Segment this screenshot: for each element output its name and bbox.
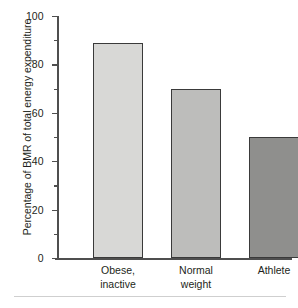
y-tick-0: 0 <box>52 258 58 259</box>
y-tick-label-40: 40 <box>32 156 44 167</box>
y-tick-label-100: 100 <box>26 11 44 22</box>
y-tick-label-0: 0 <box>38 253 44 264</box>
y-tick-60: 60 <box>52 113 58 114</box>
y-tick-100: 100 <box>52 16 58 17</box>
bottom-divider <box>14 296 286 297</box>
y-axis-title: Percentage of BMR of total energy expend… <box>19 0 35 257</box>
x-category-label-athlete: Athlete <box>224 264 298 278</box>
y-tick-80: 80 <box>52 64 58 65</box>
y-axis-line <box>57 16 59 258</box>
y-tick-70 <box>54 89 58 90</box>
y-tick-90 <box>54 40 58 41</box>
bar-normal-weight <box>171 89 221 258</box>
x-axis-line <box>55 258 292 260</box>
y-tick-30 <box>54 185 58 186</box>
bar-athlete <box>249 137 298 258</box>
y-tick-10 <box>54 234 58 235</box>
plot-area: 100 80 60 40 20 0 Obese, inactive Normal… <box>57 16 292 258</box>
bar-chart-figure: Percentage of BMR of total energy expend… <box>0 0 298 308</box>
y-tick-50 <box>54 137 58 138</box>
y-tick-40: 40 <box>52 161 58 162</box>
y-tick-label-80: 80 <box>32 59 44 70</box>
y-tick-label-20: 20 <box>32 204 44 215</box>
y-tick-20: 20 <box>52 210 58 211</box>
bar-obese-inactive <box>93 43 143 258</box>
y-tick-label-60: 60 <box>32 108 44 119</box>
